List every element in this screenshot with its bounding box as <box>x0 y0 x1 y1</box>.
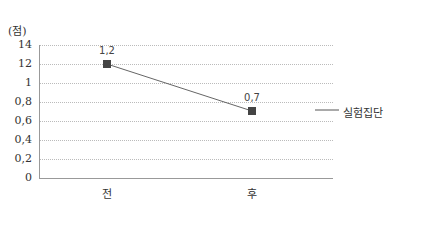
data-point-marker <box>248 107 256 115</box>
gridlines <box>40 46 333 160</box>
x-tick-label: 전 <box>92 185 122 201</box>
data-label: 1,2 <box>92 45 122 56</box>
series-line <box>107 64 252 111</box>
data-point-marker <box>103 60 111 68</box>
legend-label: 실험집단 <box>343 104 383 120</box>
legend: 실험집단 <box>343 104 383 120</box>
data-label: 0,7 <box>237 92 267 103</box>
x-tick-label: 후 <box>237 185 267 201</box>
